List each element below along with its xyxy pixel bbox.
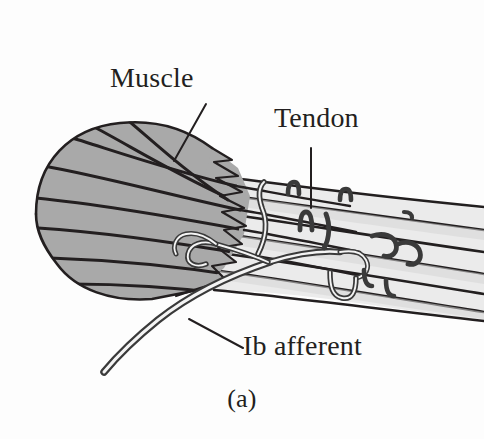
label-muscle: Muscle	[110, 62, 194, 94]
figure-caption: (a)	[0, 384, 484, 414]
label-tendon: Tendon	[274, 102, 359, 134]
ib-afferent-leader-line	[189, 319, 243, 348]
label-ib-afferent: Ib afferent	[243, 330, 362, 362]
muscle-belly	[36, 122, 250, 299]
anatomy-illustration	[0, 0, 484, 439]
figure-golgi-tendon-organ: Muscle Tendon Ib afferent (a)	[0, 0, 484, 439]
